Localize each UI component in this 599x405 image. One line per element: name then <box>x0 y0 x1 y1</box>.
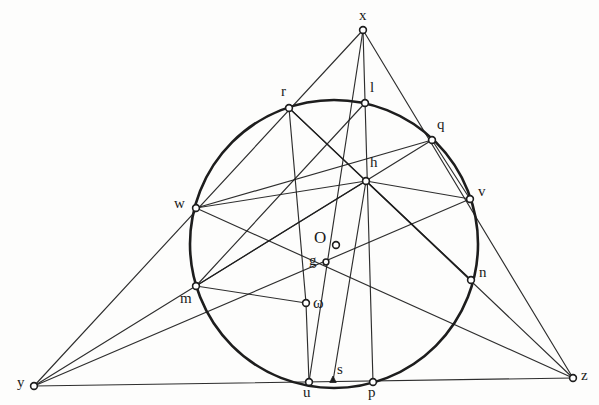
point-label-l: l <box>370 80 374 95</box>
point-label-y: y <box>17 375 25 390</box>
point-marker-w[interactable] <box>193 205 200 212</box>
figure-background <box>0 0 599 405</box>
point-label-g: g <box>309 253 317 268</box>
point-label-v: v <box>478 184 486 199</box>
point-label-s: s <box>337 362 343 377</box>
point-marker-x[interactable] <box>360 27 367 34</box>
point-label-q: q <box>437 117 445 132</box>
point-marker-z[interactable] <box>570 375 577 382</box>
point-marker-l[interactable] <box>362 100 369 107</box>
point-marker-q[interactable] <box>429 137 436 144</box>
point-marker-n[interactable] <box>468 277 475 284</box>
point-label-omega: ω <box>313 295 324 311</box>
point-label-h: h <box>370 155 378 170</box>
point-marker-O[interactable] <box>333 242 340 249</box>
point-label-r: r <box>281 84 286 99</box>
point-marker-y[interactable] <box>31 383 38 390</box>
point-marker-v[interactable] <box>467 196 474 203</box>
geometry-canvas <box>0 0 599 405</box>
point-label-O: O <box>314 229 326 246</box>
point-label-n: n <box>479 265 487 280</box>
point-label-u: u <box>303 385 311 400</box>
point-marker-omega[interactable] <box>303 300 310 307</box>
point-marker-g[interactable] <box>323 259 329 265</box>
point-marker-r[interactable] <box>286 105 293 112</box>
point-label-z: z <box>581 368 588 383</box>
point-marker-h[interactable] <box>363 178 370 185</box>
point-label-w: w <box>174 196 185 211</box>
geometry-figure: xyzrlqvnwmhOgωusp <box>0 0 599 405</box>
point-marker-m[interactable] <box>193 283 200 290</box>
point-label-p: p <box>368 385 376 400</box>
point-label-x: x <box>359 8 367 23</box>
point-label-m: m <box>180 291 192 306</box>
